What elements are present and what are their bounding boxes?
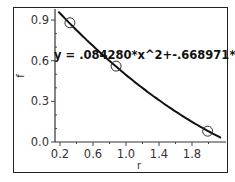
y-axis-ticks: 0.00.30.60.9 [31, 13, 57, 149]
chart-plot: 0.00.30.60.9 0.20.61.01.41.8 y = .084280… [0, 0, 235, 182]
x-axis-ticks: 0.20.61.01.41.8 [51, 142, 209, 161]
y-axis-label: f [15, 74, 26, 78]
x-tick-label: 1.4 [150, 147, 168, 161]
x-tick-label: 1.0 [117, 147, 135, 161]
y-tick-label: 0.3 [31, 94, 49, 108]
axes [55, 9, 226, 142]
fit-curve [58, 12, 221, 138]
data-points [65, 18, 213, 136]
fit-equation-label: y = .084280*x^2+-.668971*x+1.08 [54, 48, 235, 62]
y-tick-label: 0.0 [31, 135, 49, 149]
x-tick-label: 0.6 [84, 147, 102, 161]
x-tick-label: 1.8 [183, 147, 201, 161]
y-tick-label: 0.6 [31, 54, 49, 68]
y-tick-label: 0.9 [31, 13, 49, 27]
x-axis-label: r [137, 160, 142, 171]
x-tick-label: 0.2 [51, 147, 69, 161]
